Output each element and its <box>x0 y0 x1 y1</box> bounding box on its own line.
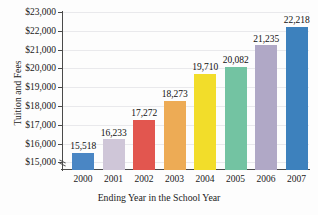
bar[interactable] <box>164 101 186 170</box>
bar-slot: 22,218 <box>282 12 313 170</box>
bar[interactable] <box>194 74 216 170</box>
x-tick-label: 2004 <box>188 174 222 184</box>
bar-slot: 17,272 <box>129 12 160 170</box>
plot-area: $15,000$16,000$17,000$18,000$19,000$20,0… <box>62 12 309 170</box>
y-tick-label: $21,000 <box>25 45 56 55</box>
y-tick-label: $15,000 <box>25 157 56 167</box>
bar-value-label: 15,518 <box>70 141 96 151</box>
bar-value-label: 21,235 <box>253 34 279 44</box>
x-tick-label: 2007 <box>280 174 314 184</box>
bar[interactable] <box>286 27 308 170</box>
bar-value-label: 17,272 <box>131 108 157 118</box>
bar-slot: 20,082 <box>221 12 252 170</box>
x-tick-label: 2005 <box>219 174 253 184</box>
bar-value-label: 22,218 <box>284 15 310 25</box>
bar-value-label: 16,233 <box>101 128 127 138</box>
bar-value-label: 19,710 <box>192 62 218 72</box>
x-tick-label: 2002 <box>127 174 161 184</box>
bar[interactable] <box>133 120 155 170</box>
y-tick-label: $23,000 <box>25 7 56 17</box>
tuition-bar-chart: Tuition and Fees $15,000$16,000$17,000$1… <box>0 0 318 215</box>
bar-value-label: 18,273 <box>162 89 188 99</box>
bar-slot: 21,235 <box>251 12 282 170</box>
y-tick-label: $20,000 <box>25 63 56 73</box>
x-tick-label: 2001 <box>97 174 131 184</box>
bar[interactable] <box>255 45 277 170</box>
y-tick-label: $16,000 <box>25 139 56 149</box>
bar-slot: 16,233 <box>99 12 130 170</box>
y-tick-label: $19,000 <box>25 82 56 92</box>
bar-slot: 18,273 <box>160 12 191 170</box>
y-tick-label: $22,000 <box>25 26 56 36</box>
x-tick-label: 2003 <box>158 174 192 184</box>
y-axis-title: Tuition and Fees <box>13 29 23 157</box>
y-tick-label: $18,000 <box>25 101 56 111</box>
bar-slot: 19,710 <box>190 12 221 170</box>
x-tick-label: 2000 <box>66 174 100 184</box>
bar[interactable] <box>72 153 94 170</box>
bar[interactable] <box>103 139 125 170</box>
bar-series: 15,51816,23317,27218,27319,71020,08221,2… <box>62 12 309 170</box>
x-axis-title: Ending Year in the School Year <box>0 192 318 203</box>
y-tick-label: $17,000 <box>25 120 56 130</box>
bar-value-label: 20,082 <box>223 55 249 65</box>
bar-slot: 15,518 <box>68 12 99 170</box>
bar[interactable] <box>225 67 247 170</box>
x-tick-label: 2006 <box>249 174 283 184</box>
